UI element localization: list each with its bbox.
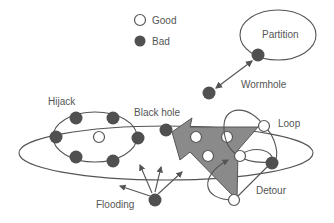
- black-hole-bad-node: [160, 124, 173, 137]
- partition-label: Partition: [262, 29, 299, 40]
- flooding-arrow: [158, 172, 182, 194]
- partition-bad-node: [252, 49, 265, 62]
- good-node: [191, 132, 202, 143]
- detour-good-node: [229, 195, 240, 206]
- loop-bad-node: [266, 157, 279, 170]
- hijack-bad-node: [70, 151, 83, 164]
- hijack-bad-node: [107, 155, 120, 168]
- flooding-label: Flooding: [96, 199, 134, 210]
- wormhole-group: Wormhole: [203, 61, 287, 100]
- hijack-label: Hijack: [48, 96, 76, 107]
- black-hole-label: Black hole: [134, 107, 181, 118]
- flooding-arrow: [140, 165, 152, 193]
- legend: Good Bad: [135, 15, 177, 48]
- bad-node-icon: [135, 36, 146, 47]
- legend-good-label: Good: [152, 15, 176, 26]
- hijack-good-node: [94, 132, 105, 143]
- good-node-icon: [135, 15, 146, 26]
- wormhole-bad-node: [203, 87, 216, 100]
- hijack-bad-node: [107, 112, 120, 125]
- detour-label: Detour: [256, 185, 287, 196]
- flooding-group: Flooding: [96, 165, 182, 210]
- good-node: [222, 132, 233, 143]
- flooding-arrow: [120, 186, 150, 196]
- good-node: [235, 151, 246, 162]
- good-node: [203, 151, 214, 162]
- hijack-group: Hijack: [48, 96, 145, 168]
- partition-group: Partition: [240, 10, 316, 62]
- loop-label: Loop: [278, 118, 301, 129]
- flooding-bad-node: [149, 194, 162, 207]
- loop-good-node: [259, 121, 270, 132]
- hijack-bad-node: [50, 131, 63, 144]
- network-attack-diagram: Good Bad Partition Wormhole Hijack Black…: [0, 0, 334, 223]
- wormhole-label: Wormhole: [241, 79, 287, 90]
- hijack-bad-node: [70, 112, 83, 125]
- hijack-bad-node: [132, 132, 145, 145]
- legend-bad-label: Bad: [152, 36, 170, 47]
